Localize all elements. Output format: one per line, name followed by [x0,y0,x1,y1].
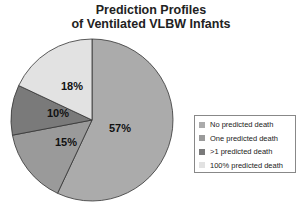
legend-label: 100% predicted death [210,161,283,170]
legend-label: >1 predicted death [210,147,272,156]
legend-item: 100% predicted death [199,159,295,173]
legend-item: One predicted death [199,132,295,146]
legend-item: No predicted death [199,118,295,132]
legend-swatch [199,135,205,141]
slice-label: 10% [47,107,69,119]
slice-label: 15% [55,136,77,148]
legend-swatch [199,149,205,155]
slice-label: 57% [109,122,131,134]
legend-swatch [199,162,205,168]
pie-chart: 57%15%10%18% [0,0,302,211]
legend-swatch [199,122,205,128]
slice-label: 18% [61,80,83,92]
legend-label: No predicted death [210,120,273,129]
legend: No predicted deathOne predicted death>1 … [194,115,296,173]
legend-item: >1 predicted death [199,145,295,159]
legend-label: One predicted death [210,134,278,143]
